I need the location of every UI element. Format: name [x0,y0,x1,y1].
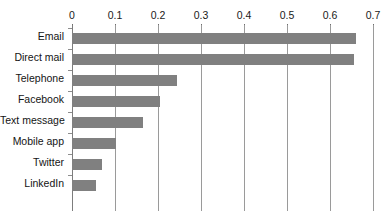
y-tick-mark [68,133,72,134]
bar-twitter [72,159,102,170]
plot-area [72,25,373,211]
bar-email [72,33,356,44]
bar-row [72,175,373,196]
y-tick-mark [68,70,72,71]
y-tick-mark [68,154,72,155]
bar-facebook [72,96,160,107]
bar-mobile-app [72,138,116,149]
bar-row [72,133,373,154]
y-tick-mark [68,49,72,50]
x-tick-label-0.2: 0.2 [151,9,166,22]
y-tick-mark [68,112,72,113]
category-label-direct-mail: Direct mail [0,50,64,65]
bar-row [72,91,373,112]
x-tick-label-0.3: 0.3 [194,9,209,22]
y-axis-category-labels: EmailDirect mailTelephoneFacebookText me… [0,25,72,211]
bar-text-message [72,117,143,128]
bar-telephone [72,75,177,86]
bar-row [72,28,373,49]
x-tick-label-0: 0 [69,9,75,22]
x-axis-tick-labels: 00.10.20.30.40.50.60.7 [0,9,384,22]
x-tick-label-0.6: 0.6 [323,9,338,22]
x-tick-label-0.7: 0.7 [366,9,381,22]
bar-row [72,49,373,70]
y-tick-mark [68,175,72,176]
bar-row [72,70,373,91]
chart-title [0,0,384,6]
category-label-linkedin: LinkedIn [0,176,64,191]
x-tick-label-0.5: 0.5 [280,9,295,22]
category-label-twitter: Twitter [0,155,64,170]
category-label-facebook: Facebook [0,92,64,107]
bar-direct-mail [72,54,354,65]
bar-chart: 00.10.20.30.40.50.60.7 EmailDirect mailT… [0,0,384,211]
bar-linkedin [72,180,96,191]
x-tick-label-0.1: 0.1 [108,9,123,22]
category-label-mobile-app: Mobile app [0,134,64,149]
bar-row [72,154,373,175]
category-label-text-message: Text message [0,113,64,128]
category-label-telephone: Telephone [0,71,64,86]
y-tick-mark [68,28,72,29]
category-label-email: Email [0,29,64,44]
bar-row [72,112,373,133]
gridline-0.7 [373,25,374,211]
y-tick-mark [68,91,72,92]
x-tick-label-0.4: 0.4 [237,9,252,22]
